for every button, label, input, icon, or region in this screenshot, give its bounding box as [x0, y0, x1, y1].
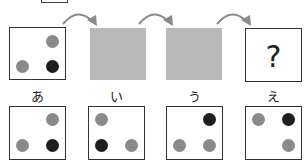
gray-dot — [46, 113, 59, 126]
start-panel — [9, 27, 66, 80]
gray-dot — [16, 60, 29, 73]
curved-arrow-icon — [60, 8, 100, 28]
curved-arrow-icon — [214, 8, 254, 28]
black-dot — [95, 139, 108, 152]
hidden-panel — [166, 28, 222, 80]
black-dot — [203, 113, 216, 126]
option-label: う — [174, 86, 214, 105]
option-u[interactable] — [166, 106, 223, 160]
option-e[interactable] — [245, 106, 302, 160]
question-mark: ? — [246, 39, 301, 74]
curved-arrow-icon — [136, 8, 176, 28]
gray-dot — [16, 139, 29, 152]
gray-dot — [282, 139, 295, 152]
gray-dot — [203, 139, 216, 152]
black-dot — [282, 113, 295, 126]
gray-dot — [95, 113, 108, 126]
gray-dot — [125, 139, 138, 152]
option-i[interactable] — [88, 106, 145, 160]
gray-dot — [173, 139, 186, 152]
black-dot — [46, 139, 59, 152]
answer-blank-box — [41, 0, 68, 3]
gray-dot — [46, 35, 59, 48]
unknown-panel: ? — [245, 28, 302, 82]
option-label: え — [253, 86, 293, 105]
hidden-panel — [90, 28, 146, 80]
option-a[interactable] — [9, 106, 66, 160]
black-dot — [46, 60, 59, 73]
option-label: い — [96, 86, 136, 105]
gray-dot — [252, 113, 265, 126]
option-label: あ — [17, 86, 57, 105]
